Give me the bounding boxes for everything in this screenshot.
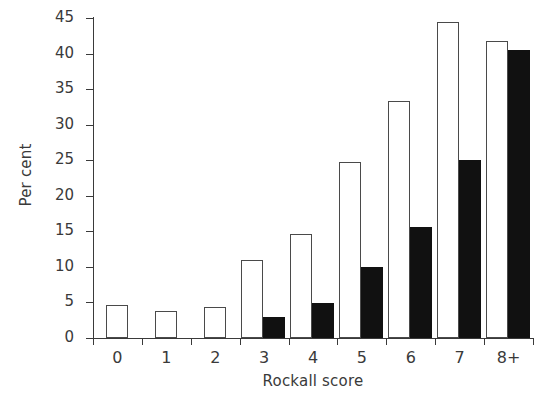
bar-open-5 bbox=[339, 162, 361, 338]
y-tick-label: 40 bbox=[40, 44, 74, 62]
y-tick-label: 25 bbox=[40, 150, 74, 168]
x-tick-label: 6 bbox=[385, 348, 437, 367]
y-tick-mark bbox=[86, 125, 93, 126]
x-tick-label: 0 bbox=[91, 348, 143, 367]
y-tick-mark bbox=[86, 267, 93, 268]
y-tick-label: 15 bbox=[40, 221, 74, 239]
bar-filled-7 bbox=[459, 160, 481, 338]
y-tick-mark bbox=[86, 89, 93, 90]
y-tick-mark bbox=[86, 302, 93, 303]
y-tick-mark bbox=[86, 18, 93, 19]
y-tick-mark bbox=[86, 338, 93, 339]
x-tick-mark bbox=[533, 338, 534, 345]
y-tick-mark bbox=[86, 54, 93, 55]
y-tick-label: 10 bbox=[40, 257, 74, 275]
bar-open-3 bbox=[241, 260, 263, 338]
x-tick-mark bbox=[484, 338, 485, 345]
x-tick-mark bbox=[191, 338, 192, 345]
x-tick-mark bbox=[240, 338, 241, 345]
x-tick-mark bbox=[435, 338, 436, 345]
y-tick-label: 45 bbox=[40, 8, 74, 26]
x-tick-label: 7 bbox=[434, 348, 486, 367]
y-tick-label: 20 bbox=[40, 186, 74, 204]
x-tick-mark bbox=[93, 338, 94, 345]
bar-open-8+ bbox=[486, 41, 508, 338]
x-tick-mark bbox=[142, 338, 143, 345]
y-tick-mark bbox=[86, 196, 93, 197]
bar-filled-5 bbox=[361, 267, 383, 338]
bar-open-4 bbox=[290, 234, 312, 338]
bar-filled-6 bbox=[410, 227, 432, 338]
x-tick-mark bbox=[337, 338, 338, 345]
bar-filled-8+ bbox=[508, 50, 530, 338]
x-tick-label: 5 bbox=[336, 348, 388, 367]
bar-open-6 bbox=[388, 101, 410, 339]
bar-open-7 bbox=[437, 22, 459, 338]
bar-filled-4 bbox=[312, 303, 334, 338]
y-tick-mark bbox=[86, 160, 93, 161]
bar-open-2 bbox=[204, 307, 226, 338]
bar-open-1 bbox=[155, 311, 177, 338]
chart-figure: Per cent 051015202530354045 012345678+ R… bbox=[0, 0, 547, 413]
x-tick-label: 8+ bbox=[483, 348, 535, 367]
y-tick-label: 35 bbox=[40, 79, 74, 97]
x-axis-line bbox=[93, 338, 534, 339]
bar-filled-3 bbox=[263, 317, 285, 338]
x-tick-mark bbox=[289, 338, 290, 345]
x-axis-label: Rockall score bbox=[93, 372, 533, 390]
x-tick-mark bbox=[386, 338, 387, 345]
bar-open-0 bbox=[106, 305, 128, 338]
y-tick-label: 5 bbox=[40, 292, 74, 310]
x-tick-label: 3 bbox=[238, 348, 290, 367]
x-tick-label: 4 bbox=[287, 348, 339, 367]
y-tick-label: 30 bbox=[40, 115, 74, 133]
y-tick-mark bbox=[86, 231, 93, 232]
y-axis-label: Per cent bbox=[13, 5, 39, 345]
x-tick-label: 2 bbox=[189, 348, 241, 367]
y-tick-label: 0 bbox=[40, 328, 74, 346]
x-tick-label: 1 bbox=[140, 348, 192, 367]
plot-area bbox=[93, 18, 533, 338]
